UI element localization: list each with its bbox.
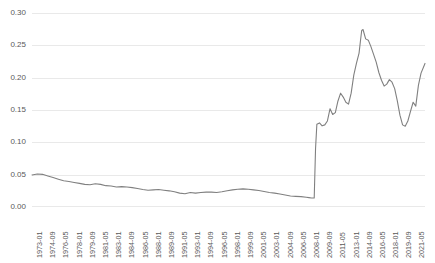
x-tick-label: 1984-09 bbox=[128, 232, 135, 258]
x-tick-label: 2011-05 bbox=[339, 232, 346, 258]
x-tick-label: 1979-09 bbox=[89, 232, 96, 258]
x-tick-label: 2018-01 bbox=[392, 232, 399, 258]
x-tick-label: 1991-05 bbox=[181, 232, 188, 258]
x-tick-label: 2003-01 bbox=[273, 232, 280, 258]
x-tick-label: 1989-09 bbox=[168, 232, 175, 258]
y-tick-label: 0.20 bbox=[0, 74, 26, 82]
x-tick-label: 2014-09 bbox=[366, 232, 373, 258]
x-tick-label: 2006-05 bbox=[300, 232, 307, 258]
x-tick-label: 1998-01 bbox=[234, 232, 241, 258]
series-1-line bbox=[32, 29, 425, 197]
data-line-series bbox=[32, 13, 425, 207]
x-tick-label: 1974-09 bbox=[49, 232, 56, 258]
x-tick-label: 2008-01 bbox=[313, 232, 320, 258]
x-tick-label: 1981-05 bbox=[102, 232, 109, 258]
x-tick-label: 2001-05 bbox=[260, 232, 267, 258]
x-tick-label: 1973-01 bbox=[36, 232, 43, 258]
y-tick-label: 0.05 bbox=[0, 171, 26, 179]
y-tick-label: 0.10 bbox=[0, 138, 26, 146]
x-tick-label: 2019-09 bbox=[405, 232, 412, 258]
plot-area bbox=[32, 13, 425, 207]
x-tick-label: 2021-05 bbox=[418, 232, 425, 258]
x-tick-label: 1976-05 bbox=[62, 232, 69, 258]
y-tick-label: 0.25 bbox=[0, 41, 26, 49]
y-tick-label: 0.15 bbox=[0, 106, 26, 114]
x-tick-label: 1983-01 bbox=[115, 232, 122, 258]
chart-container: 0.300.250.200.150.100.050.00 1973-011974… bbox=[0, 0, 435, 263]
x-tick-label: 2013-01 bbox=[353, 232, 360, 258]
x-tick-label: 1988-01 bbox=[155, 232, 162, 258]
x-axis: 1973-011974-091976-051978-011979-091981-… bbox=[32, 210, 425, 263]
y-tick-label: 0.00 bbox=[0, 203, 26, 211]
x-tick-label: 1993-01 bbox=[194, 232, 201, 258]
x-tick-label: 1996-05 bbox=[221, 232, 228, 258]
x-tick-label: 1978-01 bbox=[76, 232, 83, 258]
x-tick-label: 2016-05 bbox=[379, 232, 386, 258]
x-tick-label: 1999-09 bbox=[247, 232, 254, 258]
x-tick-label: 2004-09 bbox=[287, 232, 294, 258]
y-tick-label: 0.30 bbox=[0, 9, 26, 17]
x-tick-label: 1994-09 bbox=[207, 232, 214, 258]
x-tick-label: 1986-05 bbox=[142, 232, 149, 258]
x-tick-label: 2009-09 bbox=[326, 232, 333, 258]
